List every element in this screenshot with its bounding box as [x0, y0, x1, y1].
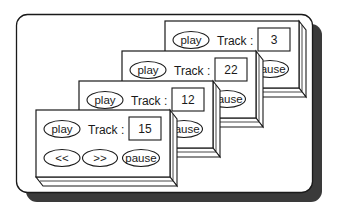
track-label: Track : — [217, 34, 253, 48]
panel-bottom — [36, 177, 177, 186]
forward-button[interactable]: >> — [83, 150, 118, 167]
pause-button-label: pause — [125, 152, 156, 164]
rewind-button[interactable]: << — [44, 150, 80, 167]
play-button[interactable]: play — [130, 62, 166, 79]
pause-button[interactable]: pause — [123, 150, 160, 167]
play-button-label: play — [51, 123, 72, 135]
track-label: Track : — [174, 64, 210, 78]
track-number-field[interactable]: 3 — [258, 28, 290, 51]
track-label: Track : — [88, 123, 124, 137]
player-panel: playTrack :15<<>>pause — [36, 110, 177, 186]
panel-side — [256, 51, 263, 127]
track-number-field[interactable]: 15 — [129, 117, 161, 140]
panel-side — [213, 81, 220, 157]
play-button[interactable]: play — [173, 32, 209, 49]
track-number-value: 15 — [138, 122, 152, 136]
play-button[interactable]: play — [44, 121, 80, 138]
forward-button-label: >> — [93, 152, 107, 164]
panel-side — [299, 21, 306, 97]
play-button-label: play — [180, 34, 201, 46]
play-button[interactable]: play — [87, 92, 123, 109]
panel-side — [170, 110, 177, 186]
diagram-canvas: playTrack :3<<>>pauseplayTrack :22<<>>pa… — [0, 0, 338, 209]
track-label: Track : — [131, 94, 167, 108]
track-number-value: 3 — [271, 33, 278, 47]
track-number-value: 22 — [224, 63, 238, 77]
rewind-button-label: << — [55, 152, 69, 164]
track-number-field[interactable]: 12 — [172, 88, 204, 111]
track-number-field[interactable]: 22 — [215, 58, 247, 81]
play-button-label: play — [94, 94, 115, 106]
track-number-value: 12 — [181, 93, 195, 107]
play-button-label: play — [137, 64, 158, 76]
